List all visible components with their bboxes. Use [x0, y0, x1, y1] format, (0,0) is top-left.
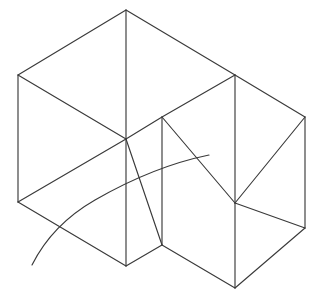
isometric-wireframe-drawing — [0, 0, 322, 301]
figure-canvas — [0, 0, 322, 301]
canvas-background — [0, 0, 322, 301]
